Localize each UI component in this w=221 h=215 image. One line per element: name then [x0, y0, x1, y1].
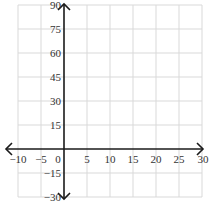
x-tick-label: 30 [198, 153, 210, 165]
x-tick-label: −5 [35, 153, 47, 165]
coordinate-plane: −10 −5 0 5 10 15 20 25 30 90 75 60 45 30… [0, 0, 221, 215]
x-tick-label: 15 [128, 153, 140, 165]
y-tick-label: 15 [50, 119, 62, 131]
y-tick-label: −30 [44, 191, 62, 203]
x-tick-label: 10 [105, 153, 117, 165]
y-tick-label: 45 [50, 71, 62, 83]
y-tick-label: 60 [50, 47, 62, 59]
x-tick-label: 0 [55, 153, 61, 165]
y-tick-label: 30 [50, 95, 62, 107]
x-tick-label: 20 [151, 153, 163, 165]
x-tick-label: 5 [84, 153, 90, 165]
x-tick-label: 25 [174, 153, 186, 165]
y-tick-label: 75 [50, 23, 62, 35]
x-tick-labels: −10 −5 0 5 10 15 20 25 30 [9, 153, 209, 165]
y-tick-label: 90 [50, 0, 62, 11]
x-tick-label: −10 [9, 153, 27, 165]
y-tick-label: −15 [44, 167, 62, 179]
